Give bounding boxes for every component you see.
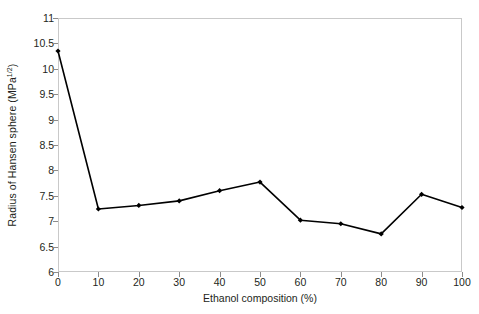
x-axis-tick-label: 20 [133,276,145,288]
x-axis-tick-label: 50 [254,276,266,288]
x-axis-tick-label: 30 [173,276,185,288]
x-axis-tick-label: 100 [453,276,471,288]
x-axis-tick-label: 70 [335,276,347,288]
chart-figure: Radius of Hansen sphere (MPa1/2) 66.577.… [0,0,479,314]
x-axis-tick-label: 40 [214,276,226,288]
y-axis-tick-label: 9.5 [39,88,54,100]
x-axis-tick-label: 10 [93,276,105,288]
x-axis-tick-label: 0 [55,276,61,288]
y-axis-tick-label: 8.5 [39,139,54,151]
y-axis-tick-labels: 66.577.588.599.51010.511 [14,0,54,314]
y-axis-tick-label: 7.5 [39,190,54,202]
y-axis-tick-label: 10.5 [34,37,54,49]
y-axis-title-superscript: 1/2 [6,67,13,77]
x-axis-tick-label: 80 [375,276,387,288]
plot-area [58,18,462,272]
y-axis-tick-label: 6.5 [39,241,54,253]
x-axis-tick-label: 90 [416,276,428,288]
x-axis-tick-label: 60 [295,276,307,288]
x-axis-title: Ethanol composition (%) [58,292,462,304]
